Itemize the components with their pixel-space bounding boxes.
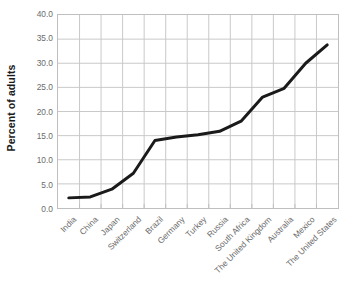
x-axis-tick-label-text: Switzerland [106,215,143,252]
y-axis-title-text: Percent of adults [5,64,17,151]
x-axis-tick-label: Japan [99,215,121,237]
x-axis-tick-label-text: Japan [99,215,121,237]
y-axis-title: Percent of adults [0,0,22,215]
x-axis-tick-label: India [59,215,78,234]
x-axis-tick-label: The United States [285,215,338,268]
x-axis-tick-label: China [78,215,99,236]
x-axis-tick-label: Australia [266,215,295,244]
line-chart-figure: Percent of adults 0.05.010.015.020.025.0… [0,0,361,296]
y-axis-tick-label: 25.0 [25,83,53,91]
x-axis-tick-label-text: The United Kingdom [213,215,273,275]
series-line-percent-of-adults [69,45,327,198]
y-axis-tick-label: 15.0 [25,132,53,140]
x-axis-tick-label-text: India [59,215,78,234]
x-axis-tick-label: Brazil [144,215,165,236]
x-axis-tick-label-text: Australia [266,215,295,244]
data-series-line [58,15,338,208]
x-axis-tick-label-text: Mexico [292,215,317,240]
x-axis-tick-label: Switzerland [106,215,143,252]
x-axis-tick-label: Turkey [184,215,208,239]
x-axis-tick-label-text: South Africa [213,215,251,253]
y-axis-tick-labels: 0.05.010.015.020.025.030.035.040.0 [22,0,53,296]
y-axis-tick-label: 0.0 [25,205,53,213]
x-axis-tick-label: Russia [206,215,230,239]
x-axis-tick-label-text: Germany [156,215,186,245]
plot-area [57,14,339,209]
y-axis-tick-label: 10.0 [25,156,53,164]
x-axis-tick-label-text: The United States [285,215,338,268]
x-axis-tick-label-text: Brazil [144,215,165,236]
x-axis-tick-label-text: China [78,215,99,236]
x-axis-tick-label: South Africa [213,215,251,253]
y-axis-tick-label: 20.0 [25,107,53,115]
x-axis-tick-label: The United Kingdom [213,215,273,275]
x-axis-tick-label: Germany [156,215,186,245]
y-axis-tick-label: 30.0 [25,59,53,67]
x-axis-tick-label-text: Russia [206,215,230,239]
y-axis-tick-label: 5.0 [25,180,53,188]
y-axis-tick-label: 35.0 [25,34,53,42]
x-axis-tick-label-text: Turkey [184,215,208,239]
y-axis-tick-label: 40.0 [25,10,53,18]
x-axis-tick-label: Mexico [292,215,317,240]
